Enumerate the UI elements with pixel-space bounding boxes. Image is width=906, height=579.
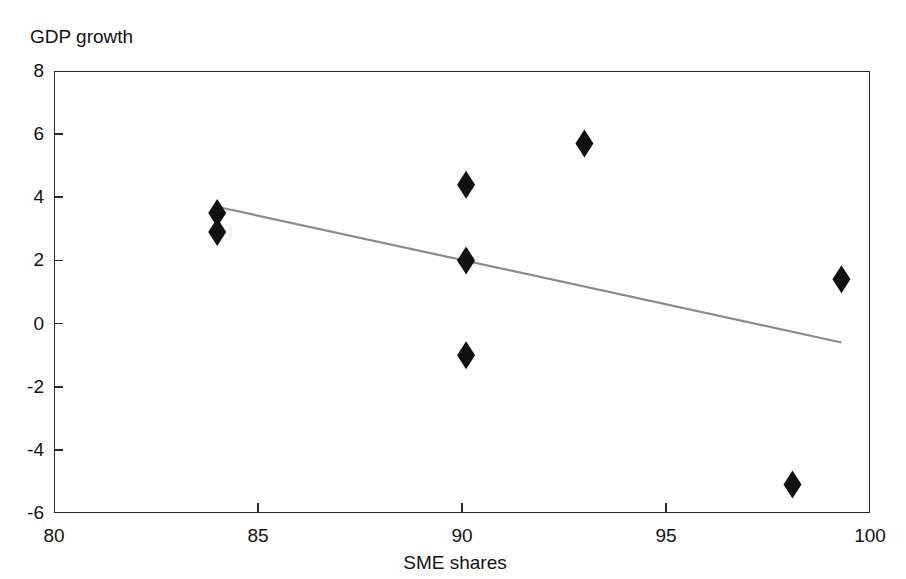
x-tick-label: 85 bbox=[223, 526, 293, 545]
y-tick-label: -6 bbox=[0, 503, 44, 522]
scatter-plot-canvas bbox=[54, 71, 870, 513]
data-point-marker bbox=[575, 130, 593, 158]
data-point-marker bbox=[208, 218, 226, 246]
y-tick-mark bbox=[54, 133, 63, 135]
y-axis-label: GDP growth bbox=[30, 26, 133, 48]
data-point-marker bbox=[457, 341, 475, 369]
y-tick-mark bbox=[54, 196, 63, 198]
y-tick-mark bbox=[54, 386, 63, 388]
x-axis-label: SME shares bbox=[403, 552, 506, 573]
data-point-marker bbox=[832, 265, 850, 293]
y-tick-label: 6 bbox=[0, 124, 44, 143]
y-tick-label: 8 bbox=[0, 61, 44, 80]
data-points-group bbox=[208, 130, 850, 499]
x-tick-mark bbox=[257, 503, 259, 513]
y-tick-mark bbox=[54, 323, 63, 325]
y-tick-label: 0 bbox=[0, 314, 44, 333]
y-tick-label: -4 bbox=[0, 440, 44, 459]
trendline bbox=[217, 207, 841, 343]
trendline-segment bbox=[217, 207, 841, 343]
data-point-marker bbox=[457, 171, 475, 199]
data-point-marker bbox=[457, 246, 475, 274]
y-tick-label: 2 bbox=[0, 250, 44, 269]
x-tick-mark bbox=[665, 503, 667, 513]
x-tick-label: 80 bbox=[19, 526, 89, 545]
chart-figure: GDP growth 86420-2-4-6 80859095100 SME s… bbox=[0, 0, 906, 579]
data-point-marker bbox=[783, 471, 801, 499]
x-tick-label: 95 bbox=[631, 526, 701, 545]
y-tick-label: 4 bbox=[0, 187, 44, 206]
x-tick-label: 100 bbox=[835, 526, 905, 545]
y-tick-label: -2 bbox=[0, 377, 44, 396]
y-tick-mark bbox=[54, 260, 63, 262]
x-tick-mark bbox=[461, 503, 463, 513]
x-axis-label-wrap: SME shares bbox=[0, 552, 906, 574]
x-tick-label: 90 bbox=[427, 526, 497, 545]
y-tick-mark bbox=[54, 449, 63, 451]
